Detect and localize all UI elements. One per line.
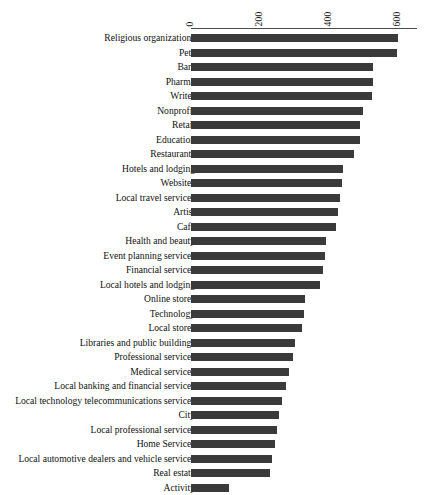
bar[interactable]: [191, 136, 360, 144]
x-axis-tick-400: 400: [324, 11, 334, 26]
bar-row[interactable]: Libraries and public buildings: [0, 336, 429, 351]
bar-row[interactable]: Activity: [0, 481, 429, 495]
bar[interactable]: [191, 455, 272, 463]
bar[interactable]: [191, 281, 320, 289]
bar-category-label: Local hotels and lodging: [100, 278, 195, 293]
x-axis-tick-200: 200: [255, 11, 265, 26]
bar-row[interactable]: Religious organizations: [0, 31, 429, 46]
bar-track: [191, 481, 417, 495]
bar-track: [191, 89, 417, 104]
bar[interactable]: [191, 165, 343, 173]
bar-row[interactable]: Restaurants: [0, 147, 429, 162]
bar-track: [191, 104, 417, 119]
bar[interactable]: [191, 252, 325, 260]
bar[interactable]: [191, 397, 282, 405]
bar-rows: Religious organizationsPetsBarsPharmaWri…: [0, 31, 429, 495]
bar-row[interactable]: Medical services: [0, 365, 429, 380]
bar-category-label: Professional services: [114, 350, 195, 365]
bar-row[interactable]: City: [0, 408, 429, 423]
bar[interactable]: [191, 295, 305, 303]
bar[interactable]: [191, 194, 340, 202]
bar-row[interactable]: Writer: [0, 89, 429, 104]
bar-category-label: Event planning services: [103, 249, 195, 264]
bar-track: [191, 191, 417, 206]
bar[interactable]: [191, 266, 323, 274]
bar-track: [191, 292, 417, 307]
bar-track: [191, 437, 417, 452]
bar[interactable]: [191, 382, 286, 390]
bar-category-label: Online stores: [144, 292, 195, 307]
bar-row[interactable]: Local travel services: [0, 191, 429, 206]
bar-category-label: Medical services: [130, 365, 195, 380]
bar-track: [191, 336, 417, 351]
bar-category-label: Real estate: [153, 466, 195, 481]
bar-track: [191, 408, 417, 423]
bar[interactable]: [191, 440, 275, 448]
bar-row[interactable]: Technology: [0, 307, 429, 322]
bar-row[interactable]: Local professional services: [0, 423, 429, 438]
bar-track: [191, 133, 417, 148]
bar-row[interactable]: Local automotive dealers and vehicle ser…: [0, 452, 429, 467]
bar[interactable]: [191, 63, 373, 71]
bar[interactable]: [191, 49, 397, 57]
bar-track: [191, 220, 417, 235]
bar-track: [191, 46, 417, 61]
bar[interactable]: [191, 310, 304, 318]
bar-category-label: Restaurants: [150, 147, 195, 162]
bar-row[interactable]: Health and beauty: [0, 234, 429, 249]
bar-category-label: Local professional services: [91, 423, 195, 438]
bar[interactable]: [191, 34, 398, 42]
bar-row[interactable]: Home Services: [0, 437, 429, 452]
bar-row[interactable]: Financial services: [0, 263, 429, 278]
bar[interactable]: [191, 368, 289, 376]
bar[interactable]: [191, 92, 372, 100]
bar-row[interactable]: Retail: [0, 118, 429, 133]
bar[interactable]: [191, 469, 270, 477]
bar-row[interactable]: Online stores: [0, 292, 429, 307]
bar-row[interactable]: Bars: [0, 60, 429, 75]
bar-category-label: Libraries and public buildings: [80, 336, 195, 351]
x-axis-line: [191, 28, 417, 29]
x-axis-tick-0: 0: [186, 21, 196, 26]
bar[interactable]: [191, 78, 373, 86]
bar-row[interactable]: Local technology telecommunications serv…: [0, 394, 429, 409]
bar[interactable]: [191, 150, 354, 158]
bar[interactable]: [191, 237, 326, 245]
bar-row[interactable]: Websites: [0, 176, 429, 191]
bar[interactable]: [191, 107, 363, 115]
bar-category-label: Local banking and financial services: [54, 379, 195, 394]
bar-track: [191, 307, 417, 322]
bar[interactable]: [191, 223, 336, 231]
bar-track: [191, 118, 417, 133]
bar-row[interactable]: Event planning services: [0, 249, 429, 264]
bar-row[interactable]: Local hotels and lodging: [0, 278, 429, 293]
bar-row[interactable]: Professional services: [0, 350, 429, 365]
bar-row[interactable]: Artist: [0, 205, 429, 220]
bar-row[interactable]: Local stores: [0, 321, 429, 336]
bar[interactable]: [191, 339, 295, 347]
bar[interactable]: [191, 411, 279, 419]
bar-row[interactable]: Pets: [0, 46, 429, 61]
bar-row[interactable]: Education: [0, 133, 429, 148]
bar-row[interactable]: Hotels and lodging: [0, 162, 429, 177]
bar[interactable]: [191, 324, 302, 332]
bar[interactable]: [191, 484, 229, 492]
bar-track: [191, 452, 417, 467]
bar-category-label: Religious organizations: [104, 31, 195, 46]
bar-category-label: Health and beauty: [125, 234, 195, 249]
bar[interactable]: [191, 121, 360, 129]
bar-row[interactable]: Nonprofit: [0, 104, 429, 119]
bar-category-label: Local travel services: [116, 191, 195, 206]
bar-row[interactable]: Cafe: [0, 220, 429, 235]
bar-row[interactable]: Local banking and financial services: [0, 379, 429, 394]
bar-category-label: Nonprofit: [157, 104, 195, 119]
bar-category-label: Education: [156, 133, 195, 148]
bar-row[interactable]: Real estate: [0, 466, 429, 481]
bar-row[interactable]: Pharma: [0, 75, 429, 90]
bar[interactable]: [191, 353, 293, 361]
bar-track: [191, 263, 417, 278]
bar[interactable]: [191, 426, 277, 434]
bar[interactable]: [191, 208, 338, 216]
bar[interactable]: [191, 179, 342, 187]
